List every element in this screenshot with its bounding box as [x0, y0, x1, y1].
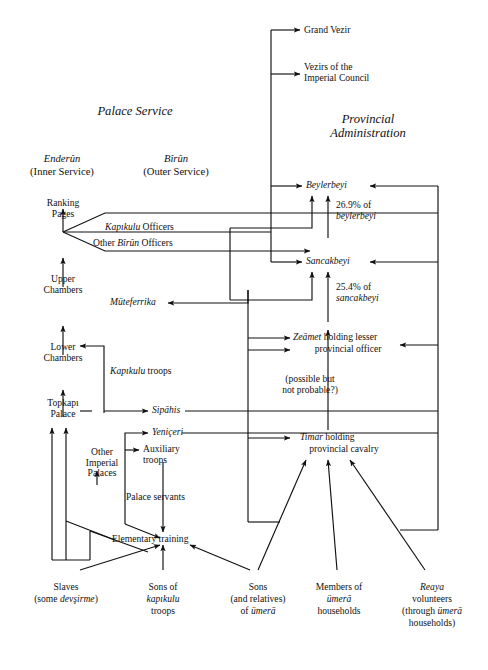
column-subheading-birun: (Outer Service): [120, 166, 232, 178]
label-kapikulu-officers-term: Kapıkulu: [105, 221, 140, 232]
source-members-umera-line1: Members of: [298, 582, 380, 593]
source-slaves-line1: Slaves: [22, 582, 110, 593]
node-yeniceri: Yeniçeri: [152, 427, 202, 438]
label-kapikulu-troops: Kapıkulu troops: [110, 366, 240, 377]
edge-members-umera-to-timar: [328, 460, 337, 570]
source-reaya-line2: volunteers: [390, 594, 474, 605]
node-zeamet-rest: holding lesser: [321, 331, 377, 342]
node-vezirs-imperial-council: Vezirs of the Imperial Council: [304, 62, 414, 83]
annotation-possible-but-not-probable: (possible but not probable?): [258, 374, 362, 395]
label-kapikulu-troops-rest: troops: [145, 365, 171, 376]
node-palace-servants: Palace servants: [126, 492, 220, 503]
label-kapikulu-troops-term: Kapıkulu: [110, 365, 145, 376]
diagram-connectors: [0, 0, 488, 670]
source-sons-umera-line2: (and relatives): [208, 594, 308, 605]
source-sons-umera-line3: of ümerā: [214, 606, 302, 617]
node-zeamet-line2: provincial officer: [293, 344, 403, 355]
node-auxiliary-troops: Auxiliary troops: [143, 444, 209, 465]
node-zeamet-line1: Zeāmet holding lesser: [293, 332, 407, 343]
annotation-pct-beylerbeyi-target: beylerbeyi: [336, 211, 412, 222]
source-reaya-line3: (through ümerā: [384, 606, 480, 617]
node-timar-term: Timar: [300, 431, 323, 442]
node-sipahis: Sipāhis: [152, 405, 202, 416]
column-heading-enderun: Enderûn: [12, 153, 112, 165]
edge-L-to-sancakbeyi: [300, 272, 312, 300]
label-kapikulu-officers-rest: Officers: [140, 221, 174, 232]
node-elementary-training: Elementary training: [112, 534, 222, 545]
source-reaya-pre: (through: [402, 605, 437, 616]
label-other-birun-officers-rest: Officers: [139, 237, 173, 248]
node-timar-line2: provincial cavalry: [288, 444, 400, 455]
source-slaves-pre: (some: [34, 593, 60, 604]
edge-L-to-beylerbeyi: [300, 196, 312, 228]
node-timar-rest: holding: [323, 431, 355, 442]
column-heading-birun: Bîrûn: [124, 153, 228, 165]
node-upper-chambers: Upper Chambers: [23, 274, 103, 295]
source-slaves-post: ): [95, 593, 98, 604]
source-sons-umera-term: ümerā: [251, 605, 276, 616]
edge-slaves-to-training: [80, 545, 160, 570]
node-other-imperial-palaces: Other Imperial Palaces: [72, 447, 132, 479]
node-grand-vezir: Grand Vezir: [304, 25, 414, 36]
ottoman-administration-diagram: Palace Service Provincial Administration…: [0, 0, 488, 670]
source-slaves-term: devşirme: [60, 593, 95, 604]
source-reaya-term: ümerā: [437, 605, 462, 616]
label-other-birun-officers-term: Bîrûn: [117, 237, 139, 248]
edge-sons-umera-to-training: [190, 545, 250, 570]
source-sons-kapikulu-line3: troops: [126, 606, 200, 617]
column-subheading-enderun: (Inner Service): [8, 166, 116, 178]
annotation-pct-sancakbeyi-target: sancakbeyi: [336, 293, 416, 304]
node-sancakbeyi: Sancakbeyi: [306, 256, 376, 267]
source-sons-kapikulu-line2: kapıkulu: [126, 594, 200, 605]
source-reaya-line4: households): [384, 618, 480, 629]
node-muteferrika: Müteferrika: [110, 297, 182, 308]
label-kapikulu-officers: Kapıkulu Officers: [105, 222, 235, 233]
source-reaya-line1: Reaya: [390, 582, 474, 593]
edge-sons-umera-to-timar: [258, 460, 306, 570]
node-lower-chambers: Lower Chambers: [23, 342, 103, 363]
node-timar-line1: Timar holding: [300, 432, 392, 443]
label-other-birun-officers: Other Bîrûn Officers: [93, 238, 243, 249]
source-sons-umera-pre: of: [241, 605, 251, 616]
label-other-birun-officers-pre: Other: [93, 237, 117, 248]
node-ranking-pages: Ranking Pages: [23, 198, 103, 219]
section-title-provincial-administration: Provincial Administration: [300, 112, 436, 140]
source-members-umera-line2: ümerā: [298, 594, 380, 605]
source-slaves-line2: (some devşirme): [14, 594, 118, 605]
edge-reaya-to-timar: [350, 460, 425, 570]
source-members-umera-line3: households: [298, 606, 380, 617]
node-zeamet-term: Zeāmet: [293, 331, 321, 342]
node-beylerbeyi: Beylerbeyi: [306, 180, 370, 191]
node-topkapi-palace: Topkapı Palace: [23, 398, 103, 419]
section-title-palace-service: Palace Service: [70, 104, 200, 118]
source-sons-umera-line1: Sons: [214, 582, 302, 593]
source-sons-kapikulu-line1: Sons of: [126, 582, 200, 593]
